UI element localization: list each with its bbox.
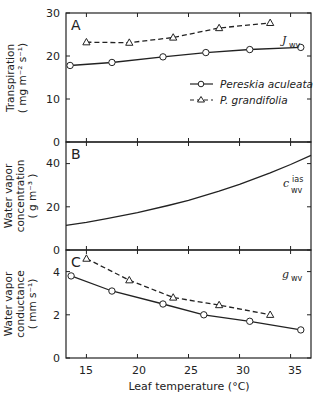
panel-b-ylabel: Water vapor concentration ( g m⁻³ ) [2,160,38,233]
circle-marker-icon [68,273,74,279]
svg-text:10: 10 [46,93,60,106]
series-line-a [86,23,270,43]
circle-marker-icon [67,62,73,68]
svg-text:Water vapor: Water vapor [2,163,14,228]
triangle-marker-icon [126,276,133,282]
panel-c-ylabel: Water vapor conductance ( mm s⁻¹) [2,270,38,337]
triangle-marker-icon [267,311,274,317]
svg-text:c: c [283,177,289,190]
series-line-c [86,259,270,315]
svg-text:wv: wv [291,186,303,195]
svg-text:20: 20 [132,364,146,377]
panel-a-ylabel: Transpiration ( mg m⁻² s⁻¹) [4,43,28,113]
svg-text:30: 30 [236,364,250,377]
circle-marker-icon [109,59,115,65]
svg-text:35: 35 [288,364,302,377]
circle-marker-icon [109,288,115,294]
legend-item-pereskia-aculeata: Pereskia aculeata [190,78,313,90]
axis-ticks [66,13,311,358]
svg-text:wv: wv [289,41,301,50]
svg-text:J: J [280,34,287,47]
svg-text:Transpiration: Transpiration [4,44,16,113]
series-line-c [71,276,301,330]
svg-text:ias: ias [292,175,303,184]
svg-text:wv: wv [291,274,303,283]
svg-text:g: g [282,268,289,281]
panel-c-label: C [71,254,81,270]
svg-text:20: 20 [46,50,60,63]
panel-a-label: A [71,17,81,33]
circle-marker-icon [247,318,253,324]
svg-text:0: 0 [53,244,60,257]
panel-c-ytick-labels: 4 2 0 [53,266,60,365]
series-line-a [70,47,301,65]
triangle-marker-icon [198,97,205,103]
svg-text:Water vapor: Water vapor [2,271,14,336]
circle-marker-icon [160,301,166,307]
svg-text:( mg m⁻² s⁻¹): ( mg m⁻² s⁻¹) [16,43,28,113]
svg-text:25: 25 [184,364,198,377]
svg-text:20: 20 [46,201,60,214]
svg-text:concentration: concentration [14,160,26,233]
x-tick-labels: 15 20 25 30 35 [79,364,302,377]
circle-marker-icon [298,327,304,333]
legend: Pereskia aculeata P. grandifolia [190,78,313,106]
series-line-b [66,155,311,225]
annotation-cwv-ias: c ias wv [283,175,303,195]
svg-text:40: 40 [46,157,60,170]
svg-text:30: 30 [46,7,60,20]
svg-text:( g m⁻³ ): ( g m⁻³ ) [26,174,38,219]
panel-b-ytick-labels: 40 20 0 [46,157,60,257]
panel-b-frame [66,142,311,250]
svg-text:( mm s⁻¹): ( mm s⁻¹) [26,279,38,330]
circle-marker-icon [201,312,207,318]
svg-text:0: 0 [53,136,60,149]
svg-text:15: 15 [79,364,93,377]
triangle-marker-icon [267,19,274,25]
svg-text:Pereskia aculeata: Pereskia aculeata [220,78,313,90]
svg-text:4: 4 [53,266,60,279]
legend-item-p-grandifolia: P. grandifolia [190,94,288,106]
svg-text:0: 0 [53,352,60,365]
panel-b-label: B [71,146,81,162]
panel-a-ytick-labels: 30 20 10 0 [46,7,60,149]
x-axis-label: Leaf temperature (°C) [128,380,249,393]
circle-marker-icon [160,54,166,60]
circle-marker-icon [198,81,204,87]
circle-marker-icon [203,49,209,55]
circle-marker-icon [247,46,253,52]
svg-text:conductance: conductance [14,270,26,337]
annotation-gwv: g wv [282,268,303,283]
svg-text:2: 2 [53,309,60,322]
figure: A B C 30 20 10 0 40 20 0 4 2 0 15 20 25 … [0,0,321,395]
data-series [66,19,311,333]
triangle-marker-icon [83,255,90,261]
svg-text:P. grandifolia: P. grandifolia [220,94,288,106]
